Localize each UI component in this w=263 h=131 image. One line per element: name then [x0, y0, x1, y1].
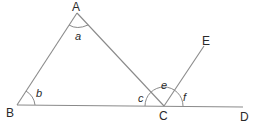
point-label-e: E [202, 34, 210, 48]
angle-label-c: c [138, 92, 144, 104]
point-label-b: B [6, 106, 14, 120]
point-label-d: D [240, 110, 249, 124]
angle-label-a: a [75, 30, 81, 42]
angle-label-f: f [183, 91, 187, 103]
point-label-a: A [72, 0, 80, 14]
triangle-angle-diagram: A B C D E a b c e f [0, 0, 263, 131]
angle-arc-b [26, 91, 35, 105]
point-label-c: C [159, 109, 168, 123]
angle-label-b: b [36, 87, 42, 99]
angle-arc-a [69, 25, 88, 28]
angle-label-e: e [161, 79, 167, 91]
segment-bd [17, 105, 243, 107]
